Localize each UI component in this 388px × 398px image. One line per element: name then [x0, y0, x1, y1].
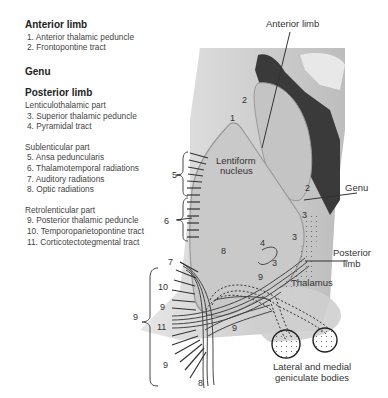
number-3: 3: [302, 210, 307, 220]
number-9: 9: [163, 360, 168, 370]
label-geniculate-2: geniculate bodies: [275, 372, 349, 383]
lateral-geniculate-body: [272, 330, 300, 358]
number-8: 8: [221, 246, 226, 256]
label-posterior: Posterior: [333, 247, 371, 258]
internal-capsule-diagram: Anterior limb Lentiform nucleus Genu Pos…: [0, 0, 388, 398]
number-10: 10: [158, 282, 168, 292]
number-9: 9: [160, 302, 165, 312]
number-9: 9: [133, 312, 138, 322]
label-nucleus: nucleus: [220, 165, 253, 176]
label-thalamus: Thalamus: [291, 277, 333, 288]
number-8: 8: [198, 378, 203, 388]
number-2: 2: [305, 183, 310, 193]
number-2: 2: [242, 95, 247, 105]
number-9: 9: [232, 323, 237, 333]
number-9: 9: [258, 272, 263, 282]
medial-geniculate-body: [313, 328, 337, 352]
number-1: 1: [230, 113, 235, 123]
number-6: 6: [164, 216, 169, 226]
number-11: 11: [157, 322, 166, 332]
label-limb: limb: [343, 258, 360, 269]
number-3: 3: [272, 258, 277, 268]
number-5: 5: [172, 170, 177, 180]
label-geniculate-1: Lateral and medial: [273, 361, 351, 372]
label-genu: Genu: [345, 182, 368, 193]
number-3: 3: [292, 232, 297, 242]
label-anterior-limb: Anterior limb: [266, 18, 319, 29]
number-4: 4: [260, 238, 265, 248]
number-7: 7: [168, 257, 173, 267]
